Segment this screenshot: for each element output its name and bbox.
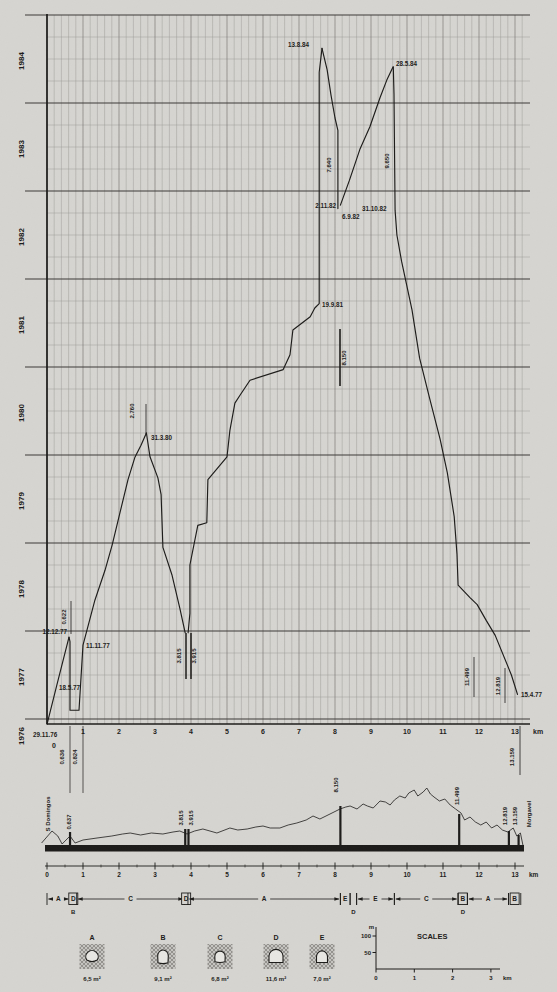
section-letter: E	[343, 895, 348, 902]
cross-section-legend: A6,5 m²B9,1 m²C6,8 m²D11,6 m²E7,0 m²	[80, 934, 335, 982]
arrowhead-right-icon	[334, 897, 339, 901]
profile-km-label: 9	[369, 871, 373, 878]
profile-km-label: 5	[225, 871, 229, 878]
tunnel-section-shape-icon	[86, 951, 98, 962]
section-letter: C	[128, 895, 133, 902]
scales-h-tick-label: 1	[413, 975, 417, 981]
scales-h-tick-label: 3	[489, 975, 493, 981]
year-label: 1982	[17, 228, 26, 246]
section-letter: A	[56, 895, 61, 902]
date-label: 15.4.77	[521, 691, 543, 698]
section-letter: D	[71, 895, 76, 902]
chainage-label: 9.650	[384, 153, 390, 169]
year-label: 1976	[17, 727, 26, 745]
date-label: 31.10.82	[362, 205, 387, 212]
section-letter: A	[262, 895, 267, 902]
km-unit-label: km	[533, 728, 543, 735]
cross-section-letter: A	[89, 934, 94, 941]
tunnel-section-shape-icon	[215, 951, 225, 962]
cross-section-area: 11,6 m²	[266, 976, 286, 982]
date-label: 12.12.77	[42, 628, 67, 635]
profile-label: 8.150	[333, 777, 339, 793]
paper-noise	[0, 0, 557, 992]
profile-label: 3.915	[188, 810, 194, 826]
terrain-profile: S Domingos0.6373.8153.9158.15011.49912.8…	[42, 777, 539, 878]
chainage-label: 13.159	[509, 747, 515, 766]
scales-km-unit: km	[503, 975, 512, 981]
scales-box: SCALESm100500123km	[361, 924, 512, 981]
year-label: 1983	[17, 140, 26, 158]
year-label: 1981	[17, 316, 26, 334]
section-letter: B	[460, 895, 465, 902]
progress-line-4	[188, 48, 322, 632]
date-label: 18.5.77	[59, 684, 81, 691]
scales-h-tick-label: 0	[374, 975, 378, 981]
chainage-label: 11.499	[464, 667, 470, 686]
profile-km-unit: km	[529, 871, 539, 878]
profile-km-label: 6	[261, 871, 265, 878]
profile-km-label: 11	[440, 871, 447, 878]
date-label: 6.9.82	[342, 213, 360, 220]
year-label: 1980	[17, 404, 26, 422]
year-axis: 197619771978197919801981198219831984	[17, 52, 26, 745]
chainage-label: 0.622	[61, 609, 67, 625]
terrain-line	[42, 788, 523, 845]
km-tick-label: 8	[333, 728, 337, 735]
cross-section-item: B9,1 m²	[151, 934, 176, 982]
tunnel-section-shape-icon	[269, 949, 283, 962]
progress-lines	[47, 48, 518, 724]
km-tick-label: 11	[439, 728, 447, 735]
cross-section-area: 6,8 m²	[211, 976, 228, 982]
date-label: 11.11.77	[86, 642, 110, 649]
profile-label: 13.159	[512, 806, 518, 825]
cross-section-area: 6,5 m²	[83, 976, 100, 982]
cross-section-item: D11,6 m²	[264, 934, 289, 982]
progress-line-5	[322, 48, 338, 208]
tunnel-progress-drawing: 1976197719781979198019811982198319841234…	[0, 0, 557, 992]
date-label: 19.9.81	[322, 301, 344, 308]
section-letter: A	[486, 895, 491, 902]
arrowhead-left-icon	[358, 897, 363, 901]
km-tick-label: 10	[403, 728, 411, 735]
profile-label: S Domingos	[45, 796, 51, 832]
arrowhead-left-icon	[78, 897, 83, 901]
cross-section-item: E7,0 m²	[310, 934, 335, 982]
section-sub-letter: D	[461, 909, 466, 915]
profile-km-label: 7	[297, 871, 301, 878]
shaft-markers	[70, 806, 519, 846]
scales-v-tick-label: 100	[361, 933, 372, 939]
chainage-label: 7.640	[326, 157, 332, 173]
scales-v-tick-label: 50	[364, 950, 371, 956]
arrowhead-left-icon	[468, 897, 473, 901]
profile-km-label: 8	[333, 871, 337, 878]
date-label: 29.11.76	[33, 731, 58, 738]
progress-line-7	[393, 67, 517, 695]
date-label: 31.3.80	[151, 434, 173, 441]
profile-km-label: 4	[189, 871, 193, 878]
arrowhead-right-icon	[503, 897, 508, 901]
chainage-label: 12.819	[495, 676, 501, 695]
cross-section-letter: B	[160, 934, 165, 941]
section-sub-letter: B	[71, 909, 76, 915]
km-axis: 123456789101112130km	[52, 728, 543, 749]
km-tick-label: 13	[511, 728, 519, 735]
profile-km-axis: 012345678910111213km	[45, 863, 539, 879]
profile-km-label: 0	[45, 871, 49, 878]
cross-section-area: 9,1 m²	[154, 976, 171, 982]
date-label: 2.11.82	[315, 202, 336, 209]
tunnel-section-shape-icon	[317, 951, 328, 963]
progress-line-6	[340, 67, 393, 205]
section-sub-letter: D	[351, 909, 356, 915]
arrowhead-right-icon	[64, 897, 69, 901]
tunnel-bar	[45, 845, 524, 852]
section-letter: E	[373, 895, 378, 902]
progress-line-2	[69, 433, 146, 710]
scales-m-unit: m	[369, 924, 374, 930]
section-letter: C	[424, 895, 429, 902]
km-tick-label: 2	[117, 728, 121, 735]
profile-label: 12.819	[502, 806, 508, 825]
profile-km-label: 3	[153, 871, 157, 878]
km-tick-label: 7	[297, 728, 301, 735]
year-label: 1979	[17, 492, 26, 510]
arrowhead-right-icon	[452, 897, 457, 901]
